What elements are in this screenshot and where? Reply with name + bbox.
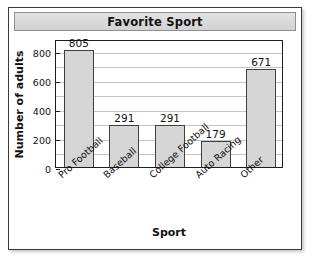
bar-value-label: 291 — [160, 112, 180, 124]
y-axis-tick-labels: 0200400600800 — [27, 40, 53, 168]
bar-value-label: 805 — [69, 37, 89, 49]
chart-body: Number of adults 0200400600800 805291291… — [9, 34, 303, 249]
y-axis-tick-label: 800 — [33, 47, 51, 58]
chart-title-banner: Favorite Sport — [14, 12, 296, 31]
bar[interactable]: 671 — [246, 41, 276, 167]
x-axis-title: Sport — [55, 226, 283, 239]
y-axis-tick-label: 400 — [33, 105, 51, 116]
y-axis-tick-label: 200 — [33, 134, 51, 145]
x-axis-tick-labels: Pro FootballBaseballCollege FootballAuto… — [55, 170, 283, 232]
bar-value-label: 671 — [251, 56, 271, 68]
bar-value-label: 291 — [114, 112, 134, 124]
page-title: Favorite Sport — [107, 15, 203, 29]
figure-frame: Favorite Sport Number of adults 02004006… — [8, 7, 302, 250]
bar[interactable]: 291 — [109, 41, 139, 167]
y-axis-title: Number of adults — [14, 50, 27, 158]
y-axis-tick-label: 0 — [45, 164, 51, 175]
bar-rect — [246, 69, 276, 167]
y-axis-tick-label: 600 — [33, 76, 51, 87]
